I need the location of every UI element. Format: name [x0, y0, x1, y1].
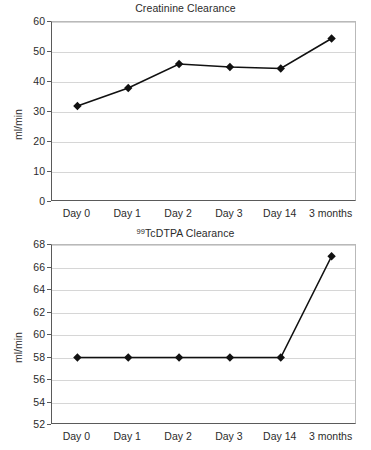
data-point-marker: [175, 60, 183, 68]
chart-title: 99TcDTPA Clearance: [0, 227, 371, 239]
y-axis-tick-label: 54: [33, 397, 45, 408]
x-axis-tick-label: 3 months: [291, 431, 371, 442]
y-axis-tick-label: 0: [39, 196, 45, 207]
y-axis-tick-label: 50: [33, 46, 45, 57]
plot-area: [51, 21, 356, 201]
chart-title-text: Creatinine Clearance: [135, 2, 236, 14]
x-axis-tick-label: Day 14: [240, 208, 320, 219]
x-axis-tick-label: Day 3: [189, 431, 269, 442]
data-point-marker: [327, 252, 335, 260]
x-axis-tick-label: Day 1: [87, 431, 167, 442]
plot-area: [51, 244, 356, 424]
y-axis-tick-label: 68: [33, 239, 45, 250]
x-axis-tick-label: Day 14: [240, 431, 320, 442]
y-axis-tick-label: 20: [33, 136, 45, 147]
x-axis-tick-label: 3 months: [291, 208, 371, 219]
data-point-marker: [73, 353, 81, 361]
chart-title-superscript: 99: [136, 227, 145, 236]
y-axis-tick-mark: [47, 424, 51, 425]
series-line: [77, 256, 331, 357]
x-axis-tick-label: Day 0: [36, 208, 116, 219]
y-axis-tick-label: 56: [33, 374, 45, 385]
series-line-group: [52, 245, 357, 425]
x-axis-tick-label: Day 2: [138, 431, 218, 442]
y-axis-tick-label: 58: [33, 352, 45, 363]
chart-title-text: TcDTPA Clearance: [145, 227, 235, 239]
y-axis-tick-label: 40: [33, 76, 45, 87]
y-axis-tick-label: 62: [33, 307, 45, 318]
y-axis-tick-mark: [47, 201, 51, 202]
chart-tcdtpa-clearance: 99TcDTPA Clearance ml/min 52545658606264…: [0, 225, 371, 450]
x-axis-tick-label: Day 3: [189, 208, 269, 219]
data-point-marker: [124, 353, 132, 361]
y-axis-tick-label: 30: [33, 106, 45, 117]
y-axis-tick-label: 66: [33, 262, 45, 273]
y-axis-label: ml/min: [12, 109, 24, 140]
y-axis-label: ml/min: [12, 332, 24, 363]
data-point-marker: [124, 84, 132, 92]
data-point-marker: [73, 102, 81, 110]
chart-creatinine-clearance: Creatinine Clearance ml/min 010203040506…: [0, 0, 371, 225]
y-axis-tick-label: 60: [33, 16, 45, 27]
series-line-group: [52, 22, 357, 202]
y-axis-tick-label: 64: [33, 284, 45, 295]
x-axis-tick-label: Day 2: [138, 208, 218, 219]
data-point-marker: [277, 353, 285, 361]
y-axis-tick-label: 60: [33, 329, 45, 340]
data-point-marker: [226, 353, 234, 361]
y-axis-tick-label: 52: [33, 419, 45, 430]
data-point-marker: [175, 353, 183, 361]
data-point-marker: [226, 63, 234, 71]
x-axis-tick-label: Day 0: [36, 431, 116, 442]
chart-title: Creatinine Clearance: [0, 2, 371, 14]
y-axis-tick-label: 10: [33, 166, 45, 177]
data-point-marker: [327, 34, 335, 42]
data-point-marker: [277, 64, 285, 72]
series-line: [77, 39, 331, 107]
x-axis-tick-label: Day 1: [87, 208, 167, 219]
